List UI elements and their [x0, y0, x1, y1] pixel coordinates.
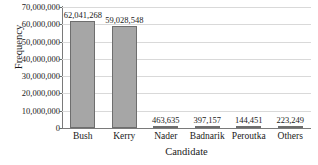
y-axis-tick-labels: 010,000,00020,000,00030,000,00040,000,00…: [12, 0, 60, 132]
y-axis-tick-label: 70,000,000: [12, 3, 60, 12]
bar: [153, 126, 178, 129]
x-axis-tick-label: Others: [263, 130, 317, 142]
y-axis-tick-mark: [59, 128, 62, 129]
y-axis-tick-label: 50,000,000: [12, 38, 60, 47]
y-axis-tick-label: 20,000,000: [12, 89, 60, 98]
bar-chart: Frequency 010,000,00020,000,00030,000,00…: [0, 0, 318, 165]
gridline: [62, 59, 311, 60]
x-axis-title: Candidate: [62, 146, 311, 158]
bar-value-label: 223,249: [264, 116, 316, 125]
y-axis-tick-label: 0: [12, 124, 60, 133]
y-axis-tick-mark: [59, 111, 62, 112]
gridline: [62, 76, 311, 77]
gridline: [62, 42, 311, 43]
y-axis-tick-label: 30,000,000: [12, 72, 60, 81]
bar: [195, 126, 220, 129]
y-axis-tick-label: 10,000,000: [12, 107, 60, 116]
x-axis-tick-labels: BushKerryNaderBadnarikPeroutkaOthers: [62, 130, 311, 144]
bar-value-label: 59,028,548: [98, 16, 150, 25]
y-axis-tick-label: 60,000,000: [12, 20, 60, 29]
y-axis-tick-label: 40,000,000: [12, 55, 60, 64]
y-axis-tick-mark: [59, 42, 62, 43]
gridline: [62, 111, 311, 112]
y-axis-tick-mark: [59, 93, 62, 94]
bar: [112, 26, 137, 128]
gridline: [62, 93, 311, 94]
bar: [70, 21, 95, 128]
y-axis-tick-mark: [59, 24, 62, 25]
y-axis-tick-mark: [59, 59, 62, 60]
plot-area: 62,041,26859,028,548463,635397,157144,45…: [62, 7, 311, 128]
bar: [278, 126, 303, 129]
y-axis-tick-mark: [59, 76, 62, 77]
y-axis-tick-mark: [59, 7, 62, 8]
gridline: [62, 7, 311, 8]
x-axis-line: [62, 128, 311, 129]
bar: [236, 126, 261, 129]
